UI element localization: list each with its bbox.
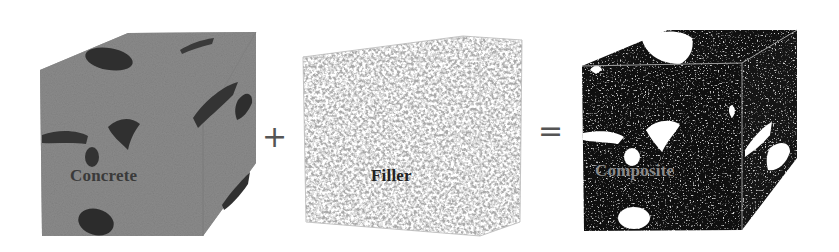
concrete-label: Concrete	[70, 166, 137, 186]
composite-label: Composite	[595, 161, 674, 181]
plus-operator: +	[262, 122, 287, 152]
composite-cube	[582, 30, 797, 231]
filler-cube	[300, 30, 530, 240]
concrete-cube	[0, 0, 839, 252]
filler-label: Filler	[371, 166, 412, 186]
concrete-cube-faces	[40, 32, 256, 239]
equals-operator: =	[538, 116, 563, 146]
